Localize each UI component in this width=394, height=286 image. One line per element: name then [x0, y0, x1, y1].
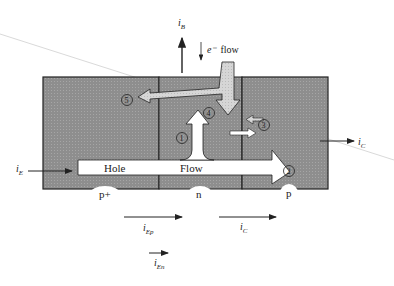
region-label-collector: p — [286, 187, 292, 199]
ib-label: iB — [178, 17, 186, 31]
hole-label: Hole — [104, 162, 126, 174]
flow-label: Flow — [180, 162, 203, 174]
svg-text:2: 2 — [287, 167, 291, 176]
iep-label: iEp — [143, 222, 154, 236]
svg-text:5: 5 — [125, 96, 129, 105]
ic-label-bottom: iC — [240, 221, 248, 235]
ien-label: iEn — [154, 257, 165, 271]
region-label-emitter: p+ — [99, 188, 111, 200]
ie-label: iE — [16, 163, 24, 177]
transistor-diagram: p+ n p Hole Flow 1 2 3 4 5 iB e⁻flow iE … — [0, 0, 394, 286]
electron-flow-label: e⁻flow — [207, 44, 240, 55]
region-label-base: n — [196, 188, 202, 200]
ic-label-right: iC — [358, 136, 366, 150]
svg-text:4: 4 — [207, 109, 211, 118]
svg-text:1: 1 — [180, 134, 184, 143]
svg-text:3: 3 — [262, 121, 266, 130]
